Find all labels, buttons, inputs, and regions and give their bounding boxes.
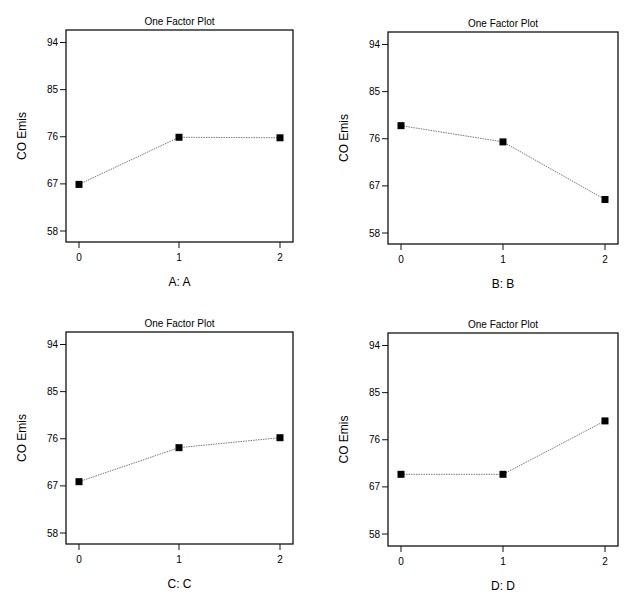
- x-axis-label: D: D: [491, 579, 515, 593]
- y-tick-label: 85: [369, 387, 381, 398]
- x-tick-label: 1: [176, 252, 182, 263]
- data-line: [79, 137, 280, 184]
- y-tick-label: 85: [369, 86, 381, 97]
- y-tick-label: 67: [47, 178, 59, 189]
- y-axis-label: CO Emis: [337, 114, 351, 162]
- plot-frame: [388, 333, 618, 546]
- x-tick-label: 2: [277, 554, 283, 565]
- data-point-marker: [277, 434, 284, 441]
- y-axis-label: CO Emis: [15, 112, 29, 160]
- y-tick-label: 76: [369, 133, 381, 144]
- y-tick-label: 76: [47, 131, 59, 142]
- x-tick-label: 0: [76, 252, 82, 263]
- data-point-marker: [398, 471, 405, 478]
- data-point-marker: [398, 122, 405, 129]
- y-tick-label: 94: [369, 39, 381, 50]
- y-tick-label: 58: [369, 529, 381, 540]
- y-axis-label: CO Emis: [337, 416, 351, 464]
- y-tick-label: 94: [369, 340, 381, 351]
- chart-title: One Factor Plot: [468, 18, 538, 29]
- x-tick-label: 1: [176, 554, 182, 565]
- data-point-marker: [76, 478, 83, 485]
- y-tick-label: 94: [47, 37, 59, 48]
- data-point-marker: [500, 138, 507, 145]
- chart-title: One Factor Plot: [144, 318, 214, 329]
- plot-frame: [66, 332, 293, 544]
- data-point-marker: [602, 417, 609, 424]
- one-factor-plots: One Factor Plot5867768594012CO EmisA: AO…: [0, 0, 637, 607]
- x-tick-label: 1: [500, 556, 506, 567]
- x-tick-label: 0: [398, 254, 404, 265]
- x-tick-label: 1: [500, 254, 506, 265]
- y-tick-label: 76: [369, 434, 381, 445]
- y-tick-label: 58: [369, 228, 381, 239]
- y-tick-label: 67: [369, 481, 381, 492]
- data-point-marker: [176, 444, 183, 451]
- data-point-marker: [500, 471, 507, 478]
- x-tick-label: 0: [76, 554, 82, 565]
- y-tick-label: 58: [47, 528, 59, 539]
- data-point-marker: [277, 134, 284, 141]
- chart-title: One Factor Plot: [144, 16, 214, 27]
- data-line: [401, 126, 605, 200]
- x-tick-label: 0: [398, 556, 404, 567]
- x-axis-label: C: C: [168, 577, 192, 591]
- y-tick-label: 67: [47, 480, 59, 491]
- x-tick-label: 2: [602, 556, 608, 567]
- y-tick-label: 58: [47, 226, 59, 237]
- chart-title: One Factor Plot: [468, 319, 538, 330]
- data-point-marker: [176, 134, 183, 141]
- x-axis-label: A: A: [168, 275, 190, 289]
- y-tick-label: 85: [47, 84, 59, 95]
- plot-frame: [388, 32, 618, 244]
- y-tick-label: 76: [47, 433, 59, 444]
- x-tick-label: 2: [602, 254, 608, 265]
- data-point-marker: [76, 181, 83, 188]
- x-tick-label: 2: [277, 252, 283, 263]
- data-point-marker: [602, 196, 609, 203]
- x-axis-label: B: B: [492, 277, 515, 291]
- y-axis-label: CO Emis: [15, 414, 29, 462]
- y-tick-label: 67: [369, 180, 381, 191]
- y-tick-label: 85: [47, 386, 59, 397]
- y-tick-label: 94: [47, 339, 59, 350]
- data-line: [401, 421, 605, 474]
